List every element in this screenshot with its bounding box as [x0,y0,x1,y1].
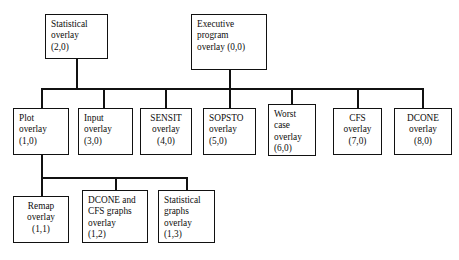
connector-drop-dcone-cfs-graphs [115,177,117,191]
connector-stem-statistical [76,59,78,89]
node-label-dcone-cfs-graphs-overlay: DCONE and CFS graphs overlay (1,2) [88,195,143,241]
connector-drop-remap [41,177,43,197]
node-label-statistical-graphs-overlay: Statistical graphs overlay (1,3) [164,195,210,241]
connector-bus-bottom [41,177,187,179]
node-input-overlay: Input overlay (3,0) [78,108,133,155]
connector-drop-sopsto [229,88,231,109]
node-label-remap-overlay: Remap overlay (1,1) [17,201,65,235]
node-sensit-overlay: SENSIT overlay (4,0) [140,108,192,155]
connector-drop-input [103,88,105,109]
node-label-dcone-overlay: DCONE overlay (8,0) [398,113,448,147]
node-sopsto-overlay: SOPSTO overlay (5,0) [203,108,256,155]
connector-drop-sensit [165,88,167,109]
node-label-sopsto-overlay: SOPSTO overlay (5,0) [209,113,251,147]
connector-drop-plot [41,88,43,109]
node-plot-overlay: Plot overlay (1,0) [13,108,69,155]
node-label-input-overlay: Input overlay (3,0) [84,113,128,147]
node-label-statistical-overlay: Statistical overlay (2,0) [51,19,103,53]
connector-drop-cfs [357,88,359,109]
node-label-plot-overlay: Plot overlay (1,0) [19,113,64,147]
node-remap-overlay: Remap overlay (1,1) [13,196,69,243]
connector-stem-plot [41,155,43,177]
node-dcone-cfs-graphs-overlay: DCONE and CFS graphs overlay (1,2) [82,190,148,243]
connector-drop-statistical-graphs [186,177,188,191]
node-dcone-overlay: DCONE overlay (8,0) [394,108,452,155]
node-cfs-overlay: CFS overlay (7,0) [333,108,382,155]
connector-drop-worst-case [291,88,293,105]
node-statistical-overlay: Statistical overlay (2,0) [45,14,108,59]
node-label-worst-case-overlay: Worst case overlay (6,0) [274,109,311,155]
connector-drop-dcone [422,88,424,109]
node-executive-program-overlay: Executive program overlay (0,0) [191,14,267,70]
connector-stem-executive [229,70,231,89]
node-worst-case-overlay: Worst case overlay (6,0) [268,104,316,156]
overlay-hierarchy-diagram: Statistical overlay (2,0)Executive progr… [0,0,459,260]
node-label-sensit-overlay: SENSIT overlay (4,0) [144,113,188,147]
node-label-executive-program-overlay: Executive program overlay (0,0) [197,19,262,53]
node-statistical-graphs-overlay: Statistical graphs overlay (1,3) [158,190,215,243]
connector-bus-top [41,88,424,90]
node-label-cfs-overlay: CFS overlay (7,0) [337,113,378,147]
